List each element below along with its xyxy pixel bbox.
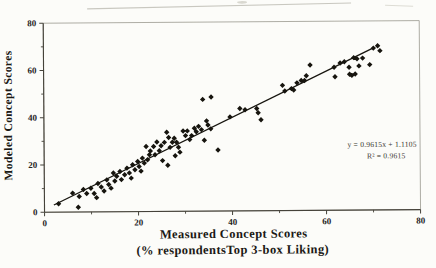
x-axis-title-line1: Measured Concept Scores [160, 226, 308, 241]
y-axis-title: Modeled Concept Scores [1, 50, 15, 180]
trend-line [53, 48, 375, 205]
x-tick-label: 40 [228, 217, 238, 227]
x-tick-label: 60 [322, 216, 332, 226]
x-tick-label: 0 [42, 218, 47, 228]
y-tick-label: 0 [33, 207, 38, 217]
scatter-plot-figure: 020406080020406080 y = 0.9615x + 1.1105 … [0, 0, 436, 268]
chart-canvas: 020406080020406080 y = 0.9615x + 1.1105 … [0, 0, 436, 268]
y-tick-label: 20 [28, 160, 38, 170]
y-tick-label: 40 [28, 113, 38, 123]
x-tick-label: 20 [134, 218, 144, 228]
axis-ticks: 020406080020406080 [27, 16, 425, 229]
scan-artifact [87, 0, 413, 9]
x-tick-label: 80 [416, 216, 426, 226]
scan-page: 020406080020406080 y = 0.9615x + 1.1105 … [0, 0, 436, 268]
x-axis-title-line2: (% respondentsTop 3-box Liking) [136, 242, 329, 257]
y-tick-label: 80 [27, 18, 37, 28]
trendline-equation: y = 0.9615x + 1.1105 [347, 140, 416, 149]
scatter-points [55, 43, 384, 210]
y-tick-label: 60 [28, 66, 38, 76]
r-squared-value: R² = 0.9615 [367, 151, 406, 160]
